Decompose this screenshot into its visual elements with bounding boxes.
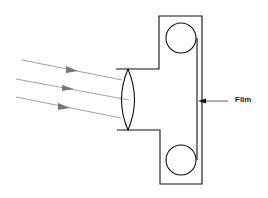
- film-label: Film: [235, 95, 251, 105]
- ray-arrowheads: [58, 66, 78, 110]
- ray-arrow-icon-1: [66, 66, 78, 73]
- camera-diagram: [0, 0, 268, 198]
- light-ray-2: [16, 79, 129, 100]
- film-supply-spool: [166, 23, 196, 53]
- ray-arrow-icon-2: [62, 85, 74, 91]
- film-takeup-spool: [166, 145, 196, 175]
- ray-arrow-icon-3: [58, 103, 70, 110]
